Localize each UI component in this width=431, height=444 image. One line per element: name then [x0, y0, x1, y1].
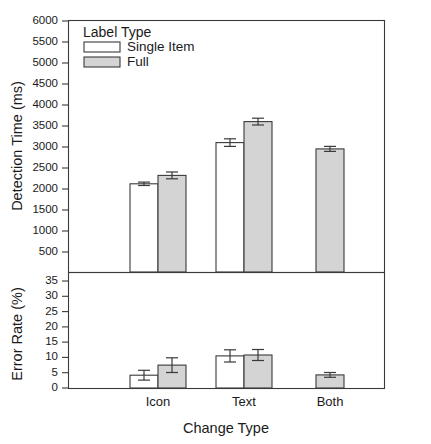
ytick-label-bottom-6: 5 [52, 366, 58, 378]
x-axis-title: Change Type [183, 420, 269, 436]
xtick-label-text: Text [232, 394, 256, 409]
ytick-label-bottom-3: 20 [45, 320, 58, 332]
top-panel: 6000 5500 5000 4500 4000 3500 3000 2500 … [9, 14, 385, 272]
legend-swatch-full[interactable] [84, 57, 120, 67]
bar-group-both-full[interactable] [316, 146, 344, 272]
ytick-label-bottom-7: 0 [52, 381, 58, 393]
ytick-label-top-7: 2500 [32, 161, 58, 173]
ytick-label-top-6: 3000 [32, 140, 58, 152]
ytick-label-bottom-2: 25 [45, 305, 58, 317]
y-axis-title-detection-time: Detection Time (ms) [9, 81, 25, 211]
chart-svg: 6000 5500 5000 4500 4000 3500 3000 2500 … [0, 0, 431, 444]
legend-title: Label Type [83, 24, 151, 40]
bar-group-err-text-full[interactable] [244, 350, 272, 389]
bar-group-icon-full[interactable] [158, 172, 186, 272]
ytick-label-top-3: 4500 [32, 77, 58, 89]
ytick-label-top-2: 5000 [32, 56, 58, 68]
bottom-panel-yticks [62, 281, 69, 388]
bar-group-err-icon-single-item[interactable] [130, 370, 158, 388]
bar-group-err-icon-full[interactable] [158, 358, 186, 388]
y-axis-title-error-rate: Error Rate (%) [9, 287, 25, 380]
bar-group-text-single-item[interactable] [216, 139, 244, 272]
figure-root: 6000 5500 5000 4500 4000 3500 3000 2500 … [0, 0, 431, 444]
ytick-label-bottom-4: 15 [45, 335, 58, 347]
bar-group-err-text-single-item[interactable] [216, 350, 244, 388]
bar-detection-text-full[interactable] [244, 122, 272, 272]
ytick-label-top-9: 1500 [32, 203, 58, 215]
bar-group-icon-single-item[interactable] [130, 182, 158, 272]
top-panel-ytick-labels: 6000 5500 5000 4500 4000 3500 3000 2500 … [32, 14, 58, 257]
ytick-label-bottom-1: 30 [45, 289, 58, 301]
legend: Label Type Single Item Full [83, 24, 195, 69]
x-axis: Icon Text Both Change Type [146, 394, 344, 436]
top-panel-yticks [62, 21, 69, 252]
bar-group-err-both-full[interactable] [316, 373, 344, 389]
bar-detection-icon-single-item[interactable] [130, 184, 158, 272]
ytick-label-top-4: 4000 [32, 98, 58, 110]
legend-label-single-item: Single Item [127, 39, 195, 54]
ytick-label-top-0: 6000 [32, 14, 58, 26]
bottom-panel-ytick-labels: 35 30 25 20 15 10 5 0 [45, 274, 58, 393]
xtick-label-icon: Icon [146, 394, 171, 409]
bar-group-text-full[interactable] [244, 118, 272, 272]
bottom-panel: 35 30 25 20 15 10 5 0 Error Rate (%) [9, 273, 385, 394]
ytick-label-top-1: 5500 [32, 35, 58, 47]
xtick-label-both: Both [317, 394, 344, 409]
ytick-label-bottom-0: 35 [45, 274, 58, 286]
legend-swatch-single-item[interactable] [84, 42, 120, 52]
bar-detection-text-single-item[interactable] [216, 143, 244, 272]
ytick-label-bottom-5: 10 [45, 350, 58, 362]
ytick-label-top-11: 500 [39, 245, 58, 257]
bar-detection-icon-full[interactable] [158, 175, 186, 272]
bar-detection-both-full[interactable] [316, 149, 344, 272]
ytick-label-top-10: 1000 [32, 224, 58, 236]
ytick-label-top-5: 3500 [32, 119, 58, 131]
ytick-label-top-8: 2000 [32, 182, 58, 194]
legend-label-full: Full [127, 54, 149, 69]
